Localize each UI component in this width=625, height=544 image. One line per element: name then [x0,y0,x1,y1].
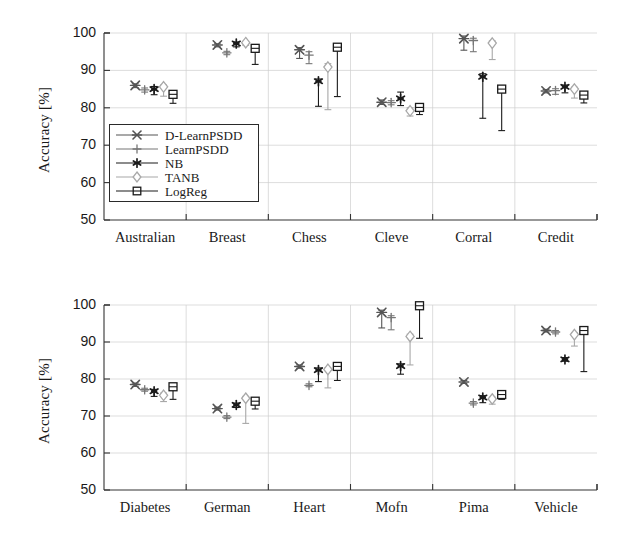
x-tick-label: Chess [292,229,327,246]
legend-item-tanb: TANB [114,170,252,184]
y-axis-label-top: Accuracy [%] [36,86,53,172]
x-tick-label: Pima [459,499,489,516]
square-icon [114,184,160,198]
y-tick-label: 80 [56,370,96,386]
series-nb [150,355,569,409]
y-tick-label: 90 [56,333,96,349]
series-learnpsdd [140,313,559,421]
legend-item-nb: NB [114,156,252,170]
legend-label: D-LearnPSDD [165,129,242,142]
legend-label: TANB [165,171,199,184]
y-tick-label: 50 [56,211,96,227]
y-tick-label: 90 [56,61,96,77]
legend-item-d-learnpsdd: D-LearnPSDD [114,128,252,142]
chart-legend: D-LearnPSDDLearnPSDDNBTANBLogReg [109,124,259,202]
x-tick-label: Mofn [375,499,407,516]
y-axis-label-bottom: Accuracy [%] [36,357,53,443]
legend-label: LearnPSDD [165,143,229,156]
y-tick-label: 70 [56,407,96,423]
legend-label: NB [165,157,183,170]
y-tick-label: 60 [56,174,96,190]
series-d-learnpsdd [130,308,550,413]
series-logreg [169,43,588,130]
asterisk-icon [114,156,160,170]
y-tick-label: 50 [56,481,96,497]
cross-star-icon [114,128,160,142]
x-tick-label: Credit [538,229,574,246]
chart-panel-top: Accuracy [%] 5060708090100 AustralianBre… [0,0,625,272]
y-tick-label: 70 [56,136,96,152]
diamond-icon [114,170,160,184]
x-tick-label: Diabetes [120,499,171,516]
legend-label: LogReg [165,185,207,198]
legend-item-learnpsdd: LearnPSDD [114,142,252,156]
x-tick-label: Corral [455,229,492,246]
accuracy-comparison-figure: Accuracy [%] 5060708090100 AustralianBre… [0,0,625,544]
y-tick-label: 100 [56,24,96,40]
x-tick-label: Australian [115,229,175,246]
y-tick-label: 60 [56,444,96,460]
plus-icon [114,142,160,156]
x-tick-label: Breast [209,229,246,246]
x-tick-label: German [204,499,251,516]
series-nb [150,39,569,118]
series-learnpsdd [140,36,559,106]
y-tick-label: 80 [56,99,96,115]
chart-panel-bottom: Accuracy [%] 5060708090100 DiabetesGerma… [0,272,625,544]
y-tick-label: 100 [56,296,96,312]
series-logreg [169,302,588,409]
x-tick-label: Vehicle [534,499,577,516]
legend-item-logreg: LogReg [114,184,252,198]
x-tick-label: Heart [293,499,325,516]
x-tick-label: Cleve [375,229,409,246]
